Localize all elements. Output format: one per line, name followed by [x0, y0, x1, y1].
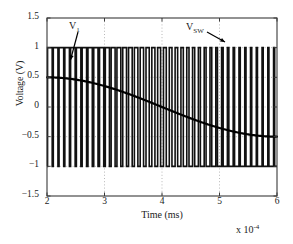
x-tick-label: 3 — [95, 196, 115, 206]
y-tick-label: −1 — [0, 159, 44, 169]
x-axis-title: Time (ms) — [47, 209, 277, 220]
annotation-vsw-subscript: SW — [193, 27, 204, 35]
x-axis-exponent-power: -4 — [254, 223, 260, 231]
chart-figure: 1.510.50−0.5−1−1.5 23456 Voltage (V) Tim… — [0, 0, 293, 244]
annotation-vsw: VSW — [186, 21, 204, 35]
x-tick-label: 2 — [37, 196, 57, 206]
x-tick-label: 4 — [152, 196, 172, 206]
y-tick-label: 1.5 — [0, 11, 44, 21]
y-axis-title: Voltage (V) — [14, 44, 25, 124]
x-axis-exponent-base: x 10 — [236, 224, 254, 235]
y-tick-label: −0.5 — [0, 130, 44, 140]
x-axis-exponent: x 10-4 — [236, 223, 259, 235]
annotation-v1: V1 — [69, 20, 80, 34]
annotation-v1-subscript: 1 — [76, 26, 80, 34]
x-tick-label: 5 — [210, 196, 230, 206]
x-tick-label: 6 — [267, 196, 287, 206]
